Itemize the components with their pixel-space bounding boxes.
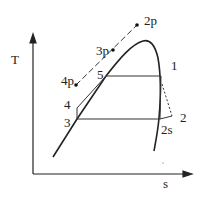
point-2-label: 2: [180, 111, 187, 124]
point-5-label: 5: [97, 68, 104, 81]
y-axis-label: T: [11, 53, 19, 66]
point-2s-label: 2s: [161, 123, 173, 136]
point-4p-label: 4p: [61, 74, 74, 87]
speck: [162, 162, 164, 164]
diagram-canvas: [0, 0, 201, 199]
point-1-label: 1: [171, 59, 178, 72]
point-4-label: 4: [64, 98, 71, 111]
point-3-label: 3: [64, 116, 71, 129]
x-axis-label: s: [163, 177, 168, 190]
ts-diagram: T s 1 2 2s 3 4 5 2p 3p 4p: [0, 0, 201, 199]
point-2p-label: 2p: [144, 14, 157, 27]
point-3p-label: 3p: [96, 44, 109, 57]
